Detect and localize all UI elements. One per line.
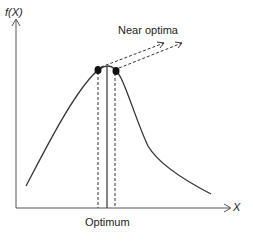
diagram-canvas xyxy=(0,0,253,243)
x-axis-label: X xyxy=(233,201,240,213)
near-optimum-left-dot xyxy=(95,66,102,74)
x-axis xyxy=(16,204,231,212)
optimum-label: Optimum xyxy=(85,216,130,228)
near-optimum-right-dot xyxy=(113,67,120,75)
near-optima-label: Near optima xyxy=(118,24,178,36)
y-axis xyxy=(12,19,20,208)
near-optima-arrow-left xyxy=(101,43,164,67)
function-curve xyxy=(26,66,211,194)
y-axis-label: f(X) xyxy=(5,6,23,18)
near-optima-arrow-right xyxy=(119,43,182,68)
